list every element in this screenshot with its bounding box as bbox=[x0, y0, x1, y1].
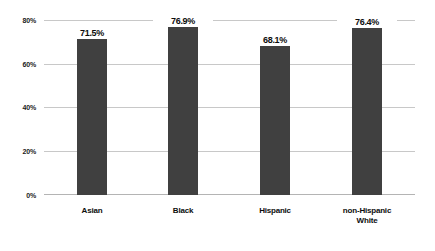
y-axis-tick-label-20: 20% bbox=[2, 148, 36, 155]
y-axis-tick-label-60: 60% bbox=[2, 61, 36, 68]
value-label-hispanic: 68.1% bbox=[245, 36, 305, 45]
x-axis-label-asian-line1: Asian bbox=[47, 206, 137, 216]
x-axis-label-black: Black bbox=[138, 206, 228, 216]
x-axis-label-non-hispanic-white-line1: non-Hispanic bbox=[322, 206, 412, 216]
x-axis-label-black-line1: Black bbox=[138, 206, 228, 216]
y-axis-tick-label-40: 40% bbox=[2, 104, 36, 111]
y-axis-tick-label-0: 0% bbox=[2, 192, 36, 199]
value-label-black: 76.9% bbox=[153, 17, 213, 26]
x-axis-label-hispanic-line1: Hispanic bbox=[230, 206, 320, 216]
value-label-asian: 71.5% bbox=[62, 29, 122, 38]
bar-chart: 80% 60% 40% 20% 0% 71.5% 76.9% 68.1% 76.… bbox=[0, 0, 435, 251]
x-axis-label-hispanic: Hispanic bbox=[230, 206, 320, 216]
x-axis-label-non-hispanic-white-line2: White bbox=[322, 216, 412, 226]
y-axis-tick-label-80: 80% bbox=[2, 17, 36, 24]
x-axis-label-non-hispanic-white: non-Hispanic White bbox=[322, 206, 412, 226]
plot-area bbox=[44, 20, 415, 195]
bar-hispanic bbox=[260, 46, 290, 195]
bar-black bbox=[168, 27, 198, 195]
bar-non-hispanic-white bbox=[352, 28, 382, 195]
value-label-non-hispanic-white: 76.4% bbox=[337, 18, 397, 27]
x-axis-label-asian: Asian bbox=[47, 206, 137, 216]
bar-asian bbox=[77, 39, 107, 195]
